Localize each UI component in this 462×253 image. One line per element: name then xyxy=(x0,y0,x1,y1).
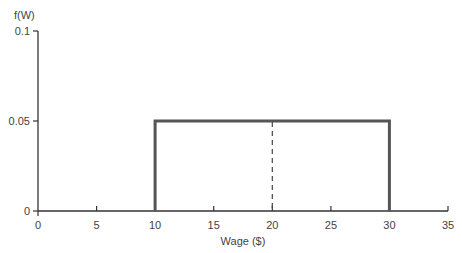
y-tick-label: 0.05 xyxy=(9,115,30,127)
x-tick-label: 30 xyxy=(383,219,395,231)
y-ticks: 0.1 0.05 0 xyxy=(9,25,38,217)
y-tick-label: 0 xyxy=(24,205,30,217)
x-tick-label: 0 xyxy=(35,219,41,231)
x-tick-label: 15 xyxy=(208,219,220,231)
chart: 0.1 0.05 0 0 5 10 15 20 25 30 35 f(W) Wa… xyxy=(0,0,462,253)
x-axis-title: Wage ($) xyxy=(221,235,266,247)
x-tick-label: 10 xyxy=(149,219,161,231)
x-tick-label: 5 xyxy=(94,219,100,231)
x-ticks: 0 5 10 15 20 25 30 35 xyxy=(35,206,454,231)
y-tick-label: 0.1 xyxy=(15,25,30,37)
x-tick-label: 35 xyxy=(442,219,454,231)
x-tick-label: 20 xyxy=(266,219,278,231)
x-tick-label: 25 xyxy=(325,219,337,231)
y-axis-title: f(W) xyxy=(14,9,35,21)
